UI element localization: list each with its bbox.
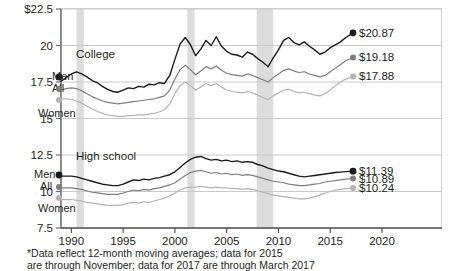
series-start-dot-hs-all [56,184,62,190]
college-all-value: $19.18 [359,51,394,63]
y-axis-label-6: 7.5 [37,222,53,234]
series-end-dot-high-school-women [350,185,356,191]
footnote-line-1: *Data reflect 12-month moving averages; … [27,248,447,260]
series-end-dot-college-all [350,54,356,60]
footnote: *Data reflect 12-month moving averages; … [27,248,447,271]
college-women-value: $17.88 [359,70,394,82]
college-men-value: $20.87 [359,27,394,39]
series-line-college-all [61,57,353,103]
x-axis-label-0: 1990 [59,235,85,247]
y-axis-label-0: $22.5 [24,3,53,15]
series-label-hs-men: Men [34,168,55,180]
y-axis-label-4: 12.5 [31,149,53,161]
series-start-dot-college-men [56,74,63,81]
hs-women-value: $10.24 [359,182,395,194]
x-axis-label-1: 1995 [110,235,136,247]
x-axis-label-3: 2005 [214,235,240,247]
series-label-college-men: Men [52,70,73,82]
y-axis-label-2: 17.5 [31,76,53,88]
series-end-dot-high-school-men [350,168,357,175]
footnote-line-2: are through November; data for 2017 are … [27,260,447,271]
x-axis-label-6: 2020 [369,235,395,247]
series-line-high-school-all [61,170,353,194]
series-end-dot-college-men [350,29,357,36]
series-label-hs-all: All [40,180,52,192]
y-axis-label-1: 20 [40,40,53,52]
group-label-high-school: High school [76,150,136,162]
series-end-dot-high-school-all [350,176,356,182]
series-start-dot-hs-women [56,195,62,201]
x-axis-label-4: 2010 [266,235,292,247]
series-start-dot-college-women [56,97,62,103]
series-start-dot-hs-men [56,172,63,179]
series-line-high-school-women [61,186,353,205]
series-label-college-women: Women [38,107,76,119]
group-label-college: College [76,48,115,60]
series-end-dot-college-women [350,73,356,79]
series-label-hs-women: Women [38,202,76,214]
x-axis-label-2: 2000 [162,235,188,247]
x-axis-label-5: 2015 [317,235,343,247]
series-start-dot-college-all [56,86,62,92]
